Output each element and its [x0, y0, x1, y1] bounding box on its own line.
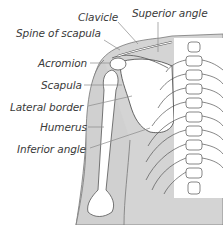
vertebral-column	[174, 38, 223, 198]
label-humerus: Humerus	[40, 122, 87, 133]
acromion-bone	[110, 58, 126, 70]
label-inferior-angle: Inferior angle	[17, 144, 86, 155]
label-acromion: Acromion	[38, 58, 87, 69]
label-scapula: Scapula	[41, 80, 82, 91]
label-clavicle: Clavicle	[78, 12, 118, 23]
label-spine-of-scapula: Spine of scapula	[16, 28, 101, 39]
label-lateral-border: Lateral border	[10, 102, 83, 113]
label-superior-angle: Superior angle	[132, 8, 208, 19]
